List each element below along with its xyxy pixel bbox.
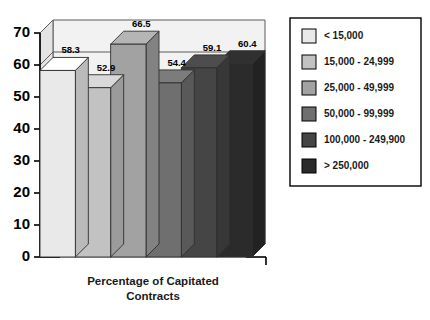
legend-label: < 15,000	[324, 30, 364, 41]
x-axis-title-line2: Contracts	[126, 290, 180, 302]
bar-front-face	[40, 70, 75, 257]
bar-side-face	[111, 75, 124, 257]
y-tick-label: 70	[13, 23, 30, 40]
x-axis-title-line1: Percentage of Capitated	[87, 275, 219, 287]
y-tick-label: 10	[13, 215, 30, 232]
bar-value-label: 59.1	[203, 42, 222, 53]
legend-swatch	[302, 133, 316, 147]
bar-side-face	[217, 55, 230, 257]
legend-label: > 250,000	[324, 160, 369, 171]
bar-value-label: 58.3	[61, 44, 80, 55]
bar-side-face	[146, 31, 159, 257]
bar-value-label: 54.4	[167, 57, 186, 68]
legend-swatch	[302, 107, 316, 121]
legend-swatch	[302, 55, 316, 69]
y-tick-label: 20	[13, 183, 30, 200]
y-tick-labels: 70 60 50 40 30 20 10 0	[13, 23, 30, 264]
y-tick-label: 60	[13, 55, 30, 72]
y-tick-label: 0	[22, 247, 30, 264]
legend-swatch	[302, 81, 316, 95]
legend-swatch	[302, 159, 316, 173]
bar-value-label: 52.9	[97, 62, 116, 73]
bar-value-label: 60.4	[238, 38, 257, 49]
legend-label: 25,000 - 49,999	[324, 82, 394, 93]
y-tick-label: 40	[13, 119, 30, 136]
bar-series	[40, 31, 265, 257]
legend: < 15,00015,000 - 24,99925,000 - 49,99950…	[290, 18, 421, 186]
y-tick-label: 30	[13, 151, 30, 168]
bar-chart-3d: 70 60 50 40 30 20 10 0 58.352.966.554.45…	[0, 0, 430, 320]
bar-side-face	[75, 57, 88, 257]
bar-1	[40, 57, 88, 257]
legend-label: 100,000 - 249,900	[324, 134, 406, 145]
bar-side-face	[181, 70, 194, 257]
bar-side-face	[252, 51, 265, 257]
bar-value-label: 66.5	[132, 18, 151, 29]
legend-label: 50,000 - 99,999	[324, 108, 394, 119]
legend-label: 15,000 - 24,999	[324, 56, 394, 67]
legend-swatch	[302, 29, 316, 43]
chart-container: 70 60 50 40 30 20 10 0 58.352.966.554.45…	[0, 0, 430, 320]
x-axis-title: Percentage of Capitated Contracts	[87, 275, 219, 302]
y-tick-label: 50	[13, 87, 30, 104]
